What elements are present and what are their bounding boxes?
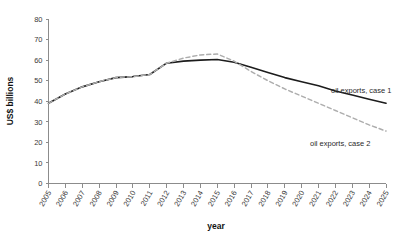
y-tick-label: 20	[34, 138, 42, 147]
x-tick-label: 2016	[223, 189, 239, 208]
x-tick-label: 2018	[256, 189, 272, 208]
chart-container: 01020304050607080 2005200620072008200920…	[0, 0, 404, 236]
annotation-oil-exports-case-2: oil exports, case 2	[310, 139, 370, 148]
x-tick-label: 2021	[307, 189, 323, 208]
y-tick-label: 0	[38, 179, 42, 188]
y-tick-label: 40	[34, 97, 42, 106]
x-tick-label: 2009	[105, 189, 121, 208]
x-tick-label: 2007	[71, 189, 87, 208]
y-axis-title: US$ billions	[5, 76, 15, 125]
x-tick-label: 2014	[189, 189, 205, 208]
x-tick-label: 2019	[273, 189, 289, 208]
y-tick-label: 80	[34, 15, 42, 24]
y-tick-label: 10	[34, 159, 42, 168]
x-tick-label: 2005	[37, 189, 53, 208]
x-tick-label: 2006	[54, 189, 70, 208]
x-tick-label: 2024	[358, 189, 374, 208]
y-tick-group: 01020304050607080	[34, 15, 48, 189]
x-tick-label: 2011	[139, 189, 155, 207]
x-tick-group: 2005200620072008200920102011201220132014…	[37, 184, 391, 208]
y-tick-label: 60	[34, 56, 42, 65]
x-tick-label: 2022	[324, 189, 340, 208]
x-tick-label: 2010	[121, 189, 137, 208]
y-tick-label: 70	[34, 35, 42, 44]
x-tick-label: 2015	[206, 189, 222, 208]
x-tick-label: 2012	[155, 189, 171, 208]
x-tick-label: 2025	[375, 189, 391, 208]
x-tick-label: 2013	[172, 189, 188, 208]
x-tick-label: 2020	[290, 189, 306, 208]
annotation-oil-exports-case-1: oil exports, case 1	[331, 86, 391, 95]
y-axis-group: 01020304050607080	[34, 15, 48, 189]
y-tick-label: 30	[34, 118, 42, 127]
series-line-oil-exports-case-1	[49, 60, 387, 104]
y-tick-label: 50	[34, 76, 42, 85]
x-axis-title: year	[207, 221, 225, 231]
line-chart: 01020304050607080 2005200620072008200920…	[0, 0, 404, 236]
x-tick-label: 2008	[88, 189, 104, 208]
x-axis-group: 2005200620072008200920102011201220132014…	[37, 184, 391, 208]
x-tick-label: 2023	[341, 189, 357, 208]
x-tick-label: 2017	[240, 189, 256, 208]
